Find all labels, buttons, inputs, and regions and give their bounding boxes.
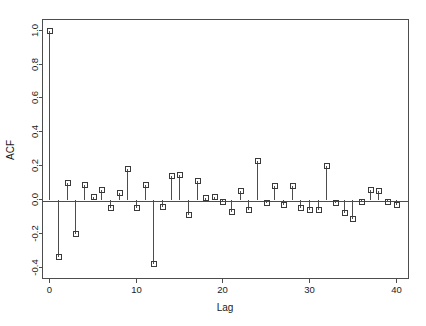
acf-plot-figure: 1.00.80.60.40.20.0-0.2-0.4 010203040 Lag… bbox=[0, 0, 426, 326]
y-tick-label: 0.8 bbox=[29, 58, 40, 71]
y-axis-title: ACF bbox=[5, 140, 16, 160]
x-tick-label: 10 bbox=[131, 284, 142, 295]
x-tick-label: 0 bbox=[47, 284, 52, 295]
x-tick-label: 30 bbox=[304, 284, 315, 295]
y-tick-label: 0.2 bbox=[29, 159, 40, 172]
x-axis-title: Lag bbox=[217, 302, 234, 313]
y-tick-label: 0.4 bbox=[29, 125, 40, 138]
x-tick-label: 20 bbox=[217, 284, 228, 295]
acf-plot-canvas: 1.00.80.60.40.20.0-0.2-0.4 010203040 Lag… bbox=[0, 0, 426, 326]
y-tick-label: -0.4 bbox=[29, 259, 40, 275]
y-tick-label: 0.6 bbox=[29, 91, 40, 104]
plot-background bbox=[0, 0, 426, 326]
y-tick-label: 1.0 bbox=[29, 24, 40, 37]
y-tick-label: 0.0 bbox=[29, 193, 40, 206]
y-tick-label: -0.2 bbox=[29, 225, 40, 241]
x-tick-label: 40 bbox=[391, 284, 402, 295]
